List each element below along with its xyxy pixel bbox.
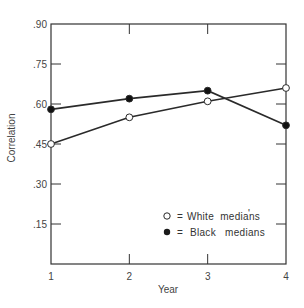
x-axis-ticks: 1234 <box>48 24 289 282</box>
open-circle-marker-icon <box>204 98 211 105</box>
legend: = White medians ' = Black medians <box>164 208 265 238</box>
filled-circle-marker-icon <box>48 106 55 113</box>
legend-equals-black: = <box>177 227 183 238</box>
y-tick-label: .60 <box>33 99 47 110</box>
y-axis-label: Correlation <box>6 114 17 163</box>
y-tick-label: .30 <box>33 179 47 190</box>
y-axis-ticks: .15.30.45.60.75.90 <box>33 19 286 230</box>
legend-label-black: Black medians <box>190 227 265 238</box>
white-medians-line <box>51 88 286 144</box>
filled-circle-marker-icon <box>204 87 211 94</box>
y-tick-label: .15 <box>33 219 47 230</box>
black-medians-line <box>51 91 286 126</box>
correlation-line-chart: .15.30.45.60.75.90 1234 Correlation Year… <box>0 0 304 308</box>
x-tick-label: 2 <box>127 271 133 282</box>
filled-circle-marker-icon <box>283 122 290 129</box>
x-tick-label: 1 <box>48 271 54 282</box>
x-tick-label: 3 <box>205 271 211 282</box>
open-circle-marker-icon <box>48 141 55 148</box>
filled-circle-marker-icon <box>126 95 133 102</box>
open-circle-marker-icon <box>283 85 290 92</box>
legend-filled-circle-icon <box>164 229 170 235</box>
y-tick-label: .75 <box>33 59 47 70</box>
y-tick-label: .45 <box>33 139 47 150</box>
open-circle-marker-icon <box>126 114 133 121</box>
legend-stray-mark: ' <box>248 208 250 219</box>
legend-equals-white: = <box>177 211 183 222</box>
y-tick-label: .90 <box>33 19 47 30</box>
legend-open-circle-icon <box>164 213 170 219</box>
x-tick-label: 4 <box>283 271 289 282</box>
x-axis-label: Year <box>158 284 179 295</box>
data-series <box>48 85 290 148</box>
